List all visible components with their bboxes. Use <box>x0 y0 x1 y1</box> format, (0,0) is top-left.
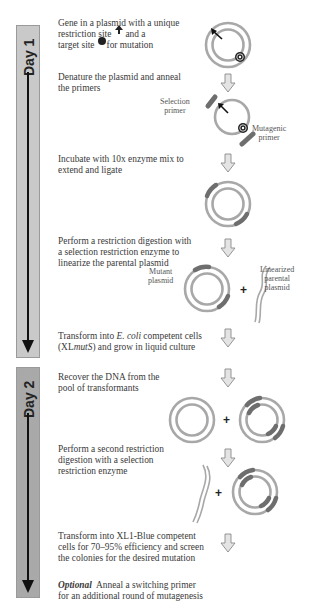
step-arrow-4 <box>221 329 235 347</box>
step-arrow-1 <box>221 74 235 92</box>
selection-primer <box>208 97 215 106</box>
denatured-plasmid-with-primers <box>208 97 253 144</box>
step-arrow-6 <box>221 449 235 467</box>
step-9-optional-text: Optional Anneal a switching primer for a… <box>58 580 203 602</box>
step-arrow-2 <box>221 154 235 172</box>
step-5-text: Transform into E. coli competent cells (… <box>58 331 202 353</box>
plus-sign: + <box>223 413 230 427</box>
day1-timeline-arrow <box>22 72 34 353</box>
mutant-plasmid <box>185 267 229 311</box>
target-site-icon <box>235 52 245 62</box>
mutagenic-primer-label: Mutagenic primer <box>252 124 286 142</box>
linearized-parental-plasmid-2 <box>193 465 210 523</box>
plus-sign: + <box>215 486 222 500</box>
plus-sign: + <box>240 283 247 297</box>
step-8-text: Transform into XL1-Blue competent cells … <box>58 531 204 564</box>
step-3-text: Incubate with 10x enzyme mix to extend a… <box>58 154 184 176</box>
selection-primer-label: Selection primer <box>160 97 190 115</box>
step-arrow-7 <box>221 534 235 552</box>
linearized-parental-label: Linearized parental plasmid <box>260 265 294 292</box>
parental-plasmid-recovered <box>170 398 214 442</box>
extended-plasmid <box>206 182 250 226</box>
mutant-plasmid-recovered <box>240 398 284 442</box>
mutant-plasmid-final <box>233 470 277 514</box>
step-arrow-3 <box>221 239 235 257</box>
step-6-text: Recover the DNA from the pool of transfo… <box>58 372 160 394</box>
day2-timeline-arrow <box>22 413 34 593</box>
mutant-plasmid-label: Mutant plasmid <box>148 267 173 285</box>
step-arrow-5 <box>221 369 235 387</box>
original-plasmid <box>206 23 250 67</box>
step-2-text: Denature the plasmid and anneal the prim… <box>58 72 181 94</box>
step-4-text: Perform a restriction digestion with a s… <box>58 236 191 269</box>
step-7-text: Perform a second restriction digestion w… <box>58 444 164 477</box>
step-1-text: Gene in a plasmid with a unique restrict… <box>58 18 179 51</box>
